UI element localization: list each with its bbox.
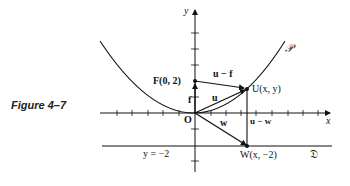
parabola-diagram: x y y = −2 𝔇 𝒫 f u u − f w u − w F(0, 2)… xyxy=(0,0,350,186)
origin-label: O xyxy=(184,114,192,125)
directrix-label: 𝔇 xyxy=(310,148,318,160)
point-w-label: W(x, −2) xyxy=(240,149,277,161)
vector-u-label: u xyxy=(212,92,218,103)
x-axis xyxy=(100,110,330,116)
focus-label: F(0, 2) xyxy=(153,75,181,87)
vector-u-minus-w-label: u − w xyxy=(250,116,272,126)
focus-point xyxy=(193,79,197,83)
parabola-curve xyxy=(100,41,285,113)
vector-u-minus-f xyxy=(195,81,244,88)
point-u-label: U(x, y) xyxy=(252,83,281,95)
vector-u xyxy=(195,90,245,113)
directrix-equation: y = −2 xyxy=(143,148,169,159)
y-axis-label: y xyxy=(183,5,189,16)
point-u xyxy=(245,87,249,91)
vector-w-label: w xyxy=(220,117,228,128)
vector-u-minus-f-label: u − f xyxy=(213,68,233,79)
x-axis-label: x xyxy=(325,115,331,126)
point-w xyxy=(245,144,249,148)
vector-f-label: f xyxy=(188,94,192,105)
parabola-label: 𝒫 xyxy=(285,42,296,54)
